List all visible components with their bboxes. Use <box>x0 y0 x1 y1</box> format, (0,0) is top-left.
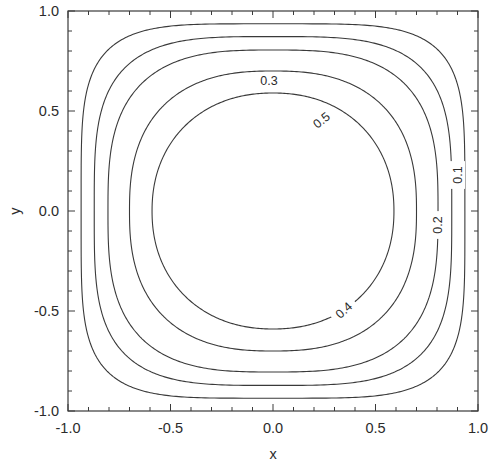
x-axis-title: x <box>269 446 277 462</box>
y-axis-tick-label: -1.0 <box>34 403 59 419</box>
y-axis-title: y <box>7 207 23 215</box>
contour-line-level-0.2 <box>94 37 452 386</box>
contour-label-0.1: 0.1 <box>450 161 465 189</box>
plot-canvas: -1.0-0.50.00.51.0-1.0-0.50.00.51.0xy0.10… <box>0 0 496 466</box>
contour-line-level-0.4 <box>130 71 417 351</box>
contour-label-text: 0.2 <box>431 216 445 233</box>
y-axis-tick-label: 1.0 <box>39 3 59 19</box>
x-axis-tick-label: -1.0 <box>56 420 81 436</box>
x-axis-tick-label: -0.5 <box>158 420 183 436</box>
x-axis-tick-label: 0.5 <box>365 420 385 436</box>
contour-label-0.4: 0.4 <box>328 295 359 325</box>
contour-path <box>94 37 452 386</box>
contour-line-level-0.5 <box>152 93 394 329</box>
contour-path <box>152 93 394 329</box>
y-axis-tick-label: 0.5 <box>39 103 59 119</box>
contour-path <box>108 50 438 372</box>
x-axis-tick-label: 0.0 <box>263 420 283 436</box>
contour-label-text: 0.1 <box>451 166 465 183</box>
contour-label-0.5: 0.5 <box>306 106 337 135</box>
contour-label-0.3: 0.3 <box>255 73 283 88</box>
contour-line-level-0.3 <box>108 50 438 372</box>
y-axis-tick-label: -0.5 <box>34 303 59 319</box>
contour-path <box>130 71 417 351</box>
contour-label-text: 0.3 <box>260 74 277 88</box>
contour-label-0.2: 0.2 <box>430 211 445 239</box>
y-axis-tick-label: 0.0 <box>39 203 59 219</box>
contour-plot-figure: -1.0-0.50.00.51.0-1.0-0.50.00.51.0xy0.10… <box>0 0 496 466</box>
x-axis-tick-label: 1.0 <box>468 420 488 436</box>
